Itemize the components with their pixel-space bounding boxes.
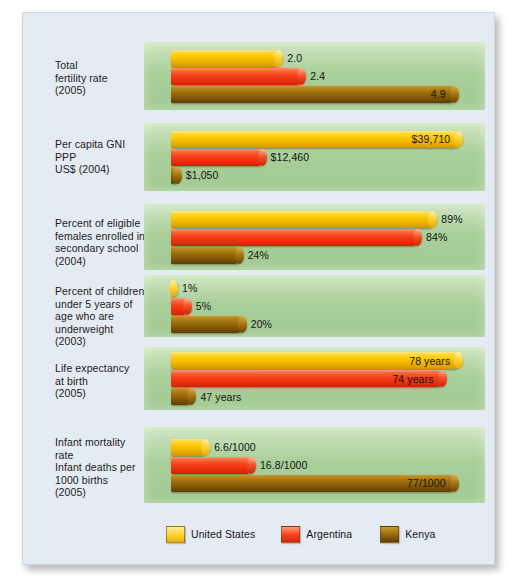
chart-rows: Totalfertility rate(2005)2.02.44.9Per ca… [23, 13, 494, 564]
chart-panel: 89%84%24% [144, 204, 485, 270]
chart-panel: 1%5%20% [144, 275, 485, 337]
bar-ar[interactable]: 74 years [171, 370, 446, 387]
bar-us[interactable]: 89% [171, 211, 436, 228]
bar-fill [171, 457, 255, 474]
bar-fill [171, 247, 243, 264]
legend-swatch-icon-united-states [166, 526, 185, 543]
bar-cap-icon [258, 149, 267, 166]
bar-cap-icon [187, 388, 196, 405]
bar-cap-icon [173, 167, 182, 184]
bar-value-label: $39,710 [412, 133, 451, 145]
chart-panel: 6.6/100016.8/100077/1000 [144, 427, 485, 503]
bar-fill [171, 439, 209, 456]
bar-cap-icon [238, 316, 247, 333]
bar-us[interactable]: 78 years [171, 352, 462, 369]
bar-ar[interactable]: 84% [171, 229, 421, 246]
bar-cap-icon [169, 280, 178, 297]
bar-fill [171, 388, 195, 405]
legend-item-argentina: Argentina [281, 526, 352, 543]
bar-cap-icon [454, 352, 463, 369]
bar-cap-icon [413, 229, 422, 246]
bar-cap-icon [450, 475, 459, 492]
bar-cap-icon [274, 50, 283, 67]
bar-fill [171, 298, 191, 315]
bar-fill [171, 211, 436, 228]
bar-cap-icon [297, 68, 306, 85]
bar-cap-icon [183, 298, 192, 315]
chart-panel: 78 years74 years47 years [144, 347, 485, 410]
bar-ar[interactable]: 2.4 [171, 68, 305, 85]
bar-ke[interactable]: 20% [171, 316, 246, 333]
bar-cap-icon [201, 439, 210, 456]
bar-value-label: 78 years [409, 355, 450, 367]
bar-value-label: 1% [182, 282, 197, 294]
bar-us[interactable]: 2.0 [171, 50, 282, 67]
legend-label-kenya: Kenya [405, 528, 435, 540]
bar-ke[interactable]: 24% [171, 247, 243, 264]
chart-panel: $39,710$12,460$1,050 [144, 123, 485, 191]
bar-value-label: 74 years [392, 373, 433, 385]
bar-cap-icon [454, 131, 463, 148]
bar-value-label: 16.8/1000 [260, 459, 308, 471]
bar-us[interactable]: 6.6/1000 [171, 439, 209, 456]
bar-fill [171, 50, 282, 67]
bar-value-label: 47 years [200, 391, 241, 403]
bar-fill [171, 149, 266, 166]
legend-swatch-icon-kenya [380, 526, 399, 543]
bar-fill [171, 68, 305, 85]
bar-value-label: 4.9 [431, 88, 446, 100]
bar-value-label: 6.6/1000 [214, 441, 256, 453]
bar-cap-icon [450, 86, 459, 103]
bar-cap-icon [235, 247, 244, 264]
bar-ke[interactable]: 4.9 [171, 86, 458, 103]
bar-cap-icon [438, 370, 447, 387]
bar-value-label: $12,460 [271, 151, 310, 163]
bar-value-label: $1,050 [186, 169, 219, 181]
bar-ar[interactable]: 16.8/1000 [171, 457, 255, 474]
bar-fill [171, 280, 177, 297]
bar-value-label: 89% [441, 213, 462, 225]
bar-cap-icon [428, 211, 437, 228]
bar-value-label: 84% [426, 231, 447, 243]
bar-ar[interactable]: $12,460 [171, 149, 266, 166]
legend-swatch-icon-argentina [281, 526, 300, 543]
legend-label-united-states: United States [191, 528, 255, 540]
chart-legend: United States Argentina Kenya [144, 521, 485, 547]
bar-fill [171, 167, 181, 184]
chart-card: Totalfertility rate(2005)2.02.44.9Per ca… [22, 12, 495, 565]
bar-value-label: 2.0 [287, 52, 302, 64]
bar-value-label: 5% [196, 300, 211, 312]
bar-value-label: 24% [248, 249, 269, 261]
chart-panel: 2.02.44.9 [144, 42, 485, 110]
bar-fill [171, 86, 458, 103]
bar-ke[interactable]: 77/1000 [171, 475, 458, 492]
bar-us[interactable]: 1% [171, 280, 177, 297]
bar-value-label: 20% [251, 318, 272, 330]
legend-label-argentina: Argentina [306, 528, 352, 540]
legend-item-united-states: United States [166, 526, 255, 543]
bar-value-label: 2.4 [310, 70, 325, 82]
bar-value-label: 77/1000 [407, 477, 446, 489]
bar-cap-icon [247, 457, 256, 474]
bar-ar[interactable]: 5% [171, 298, 191, 315]
bar-ke[interactable]: 47 years [171, 388, 195, 405]
legend-item-kenya: Kenya [380, 526, 435, 543]
bar-ke[interactable]: $1,050 [171, 167, 181, 184]
bar-fill [171, 316, 246, 333]
bar-fill [171, 229, 421, 246]
bar-us[interactable]: $39,710 [171, 131, 462, 148]
